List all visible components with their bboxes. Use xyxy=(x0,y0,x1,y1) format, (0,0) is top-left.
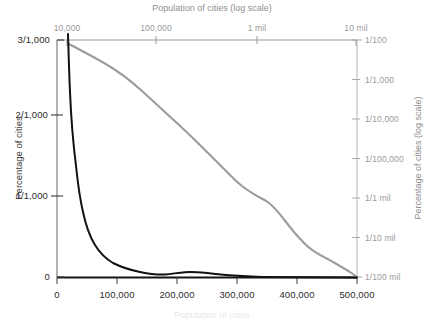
bottom-tick-label-0: 0 xyxy=(54,290,59,300)
bottom-tick-label-400000: 400,000 xyxy=(279,290,314,300)
bottom-tick-label-500000: 500,000 xyxy=(339,290,374,300)
top-tick-label-10mil: 10 mil xyxy=(344,24,367,33)
right-tick-label-1-per-1mil: 1/1 mil xyxy=(365,194,391,203)
bottom-tick-label-200000: 200,000 xyxy=(159,290,194,300)
top-tick-label-10000: 10,000 xyxy=(54,24,81,33)
right-tick-label-1-per-10mil: 1/10 mil xyxy=(365,233,396,242)
right-tick-label-1-per-100mil: 1/100 mil xyxy=(365,273,400,282)
left-tick-label-zero: 0 xyxy=(45,272,50,282)
right-tick-label-1-per-100000: 1/100,000 xyxy=(365,154,404,163)
right-tick-label-1-per-10000: 1/10,000 xyxy=(365,115,399,124)
top-axis-title: Population of cities (log scale) xyxy=(152,4,272,13)
top-axis-ticks xyxy=(67,36,356,46)
bottom-axis-title: Population of cities xyxy=(174,310,250,320)
right-tick-label-1-per-100: 1/100 xyxy=(365,36,387,45)
bottom-tick-label-300000: 300,000 xyxy=(219,290,254,300)
top-tick-label-100000: 100,000 xyxy=(140,24,171,33)
bottom-tick-label-100000: 100,000 xyxy=(99,290,134,300)
series-log-scale-curve xyxy=(69,44,357,277)
right-tick-label-1-per-1000: 1/1,000 xyxy=(365,75,394,84)
top-tick-label-1mil: 1 mil xyxy=(248,24,266,33)
series-linear-scale-curve xyxy=(68,34,357,278)
left-tick-label-3-per-1000: 3/1,000 xyxy=(18,35,50,45)
left-axis-title: Percentage of cities xyxy=(14,116,24,199)
right-axis-title: Percentage of cities (log scale) xyxy=(414,96,423,219)
